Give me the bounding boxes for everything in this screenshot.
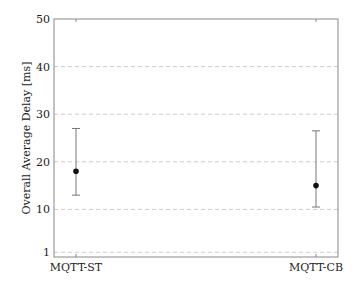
x-tick-label: MQTT-CB [289, 261, 343, 274]
grid-lines [54, 67, 338, 253]
x-tick-label: MQTT-ST [50, 261, 103, 274]
y-tick-label: 20 [36, 156, 50, 169]
y-axis-label: Overall Average Delay [ms] [20, 62, 33, 215]
y-tick-label: 50 [36, 13, 50, 26]
y-tick-labels: 11020304050 [36, 13, 50, 259]
errorbar-point [312, 131, 320, 207]
data-points [72, 128, 320, 207]
y-tick-label: 1 [43, 246, 50, 259]
plot-frame [54, 19, 338, 257]
x-tick-labels: MQTT-STMQTT-CB [50, 19, 343, 274]
y-tick-label: 30 [36, 108, 50, 121]
errorbar-chart: 11020304050 MQTT-STMQTT-CB Overall Avera… [0, 0, 354, 288]
y-tick-label: 10 [36, 203, 50, 216]
y-tick-label: 40 [36, 61, 50, 74]
